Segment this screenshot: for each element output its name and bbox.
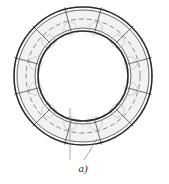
inner-boundary-circle: [38, 31, 128, 121]
figure-container: a): [0, 0, 169, 184]
ring-diagram: a): [0, 0, 169, 184]
figure-caption-label: a): [78, 162, 88, 175]
